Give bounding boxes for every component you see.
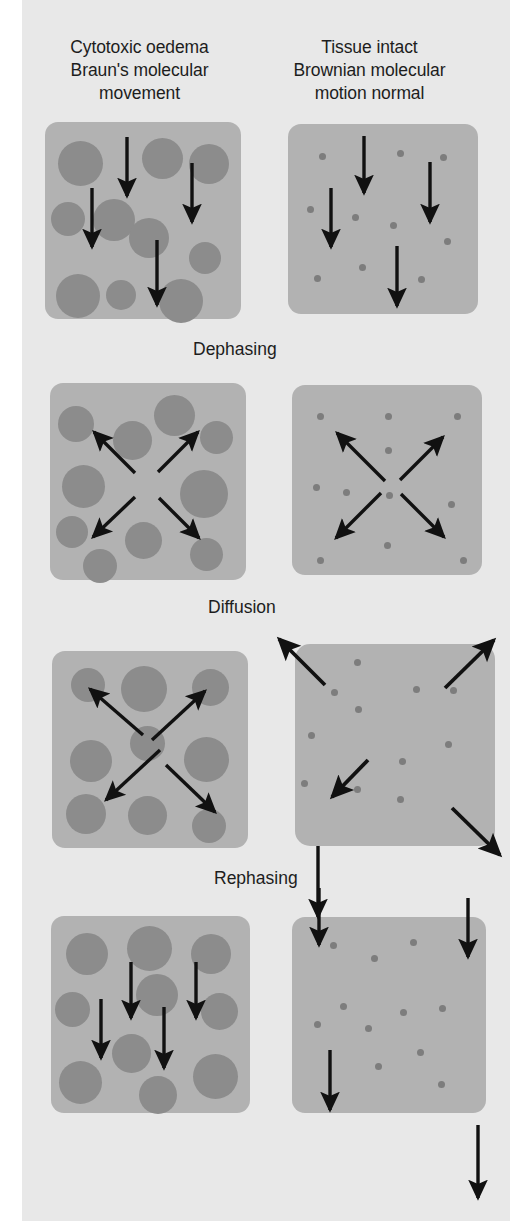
molecule-blob bbox=[189, 242, 221, 274]
panel-diffusion-left bbox=[52, 651, 248, 848]
molecule-blob bbox=[191, 934, 231, 974]
molecule-dot bbox=[448, 501, 455, 508]
molecule-blob bbox=[184, 737, 229, 782]
molecule-blob bbox=[56, 274, 100, 318]
molecule-dot bbox=[397, 796, 404, 803]
molecule-blob bbox=[55, 992, 90, 1027]
molecule-blob bbox=[189, 144, 229, 184]
molecule-blob bbox=[180, 470, 228, 518]
molecule-dot bbox=[314, 1021, 321, 1028]
molecule-blob bbox=[201, 993, 238, 1030]
molecule-blob bbox=[113, 421, 152, 460]
molecule-dot bbox=[340, 1003, 347, 1010]
molecule-dot bbox=[460, 557, 467, 564]
stage-label-dephasing: Dephasing bbox=[193, 338, 277, 360]
molecule-blob bbox=[129, 218, 169, 258]
molecule-dot bbox=[413, 686, 420, 693]
molecule-dot bbox=[386, 492, 393, 499]
molecule-dot bbox=[355, 706, 362, 713]
molecule-dot bbox=[417, 1049, 424, 1056]
panel-rephasing-left bbox=[51, 916, 250, 1113]
stage-label-rephasing: Rephasing bbox=[214, 867, 298, 889]
molecule-blob bbox=[58, 406, 94, 442]
molecule-dot bbox=[331, 689, 338, 696]
molecule-dot bbox=[371, 955, 378, 962]
molecule-dot bbox=[397, 150, 404, 157]
molecule-blob bbox=[154, 395, 195, 436]
molecule-blob bbox=[139, 1076, 177, 1114]
molecule-blob bbox=[193, 1054, 238, 1099]
column-title-left: Cytotoxic oedema Braun's molecular movem… bbox=[32, 36, 247, 105]
molecule-blob bbox=[51, 202, 85, 236]
molecule-dot bbox=[317, 557, 324, 564]
molecule-dot bbox=[313, 484, 320, 491]
molecule-blob bbox=[142, 138, 183, 179]
molecule-blob bbox=[125, 522, 162, 559]
molecule-blob bbox=[70, 740, 112, 782]
molecule-blob bbox=[66, 933, 108, 975]
molecule-dot bbox=[439, 1005, 446, 1012]
molecule-dot bbox=[317, 413, 324, 420]
molecule-dot bbox=[354, 659, 361, 666]
molecule-dot bbox=[440, 154, 447, 161]
molecule-dot bbox=[390, 222, 397, 229]
molecule-dot bbox=[445, 741, 452, 748]
molecule-dot bbox=[399, 758, 406, 765]
molecule-dot bbox=[307, 206, 314, 213]
molecule-dot bbox=[319, 153, 326, 160]
molecule-dot bbox=[308, 732, 315, 739]
molecule-blob bbox=[200, 421, 233, 454]
molecule-dot bbox=[352, 214, 359, 221]
molecule-blob bbox=[59, 1061, 102, 1104]
column-title-right: Tissue intact Brownian molecular motion … bbox=[262, 36, 477, 105]
molecule-blob bbox=[62, 465, 105, 508]
molecule-dot bbox=[438, 1081, 445, 1088]
molecule-blob bbox=[56, 516, 88, 548]
molecule-dot bbox=[314, 275, 321, 282]
molecule-dot bbox=[418, 276, 425, 283]
molecule-blob bbox=[66, 794, 106, 834]
molecule-dot bbox=[365, 1025, 372, 1032]
molecule-dot bbox=[343, 489, 350, 496]
molecule-blob bbox=[127, 926, 172, 971]
molecule-dot bbox=[450, 687, 457, 694]
molecule-dot bbox=[359, 264, 366, 271]
molecule-blob bbox=[192, 669, 229, 706]
panel-baseline-right bbox=[288, 124, 478, 314]
molecule-blob bbox=[136, 974, 178, 1016]
molecule-blob bbox=[58, 141, 103, 186]
panel-dephasing-right bbox=[292, 385, 482, 575]
molecule-dot bbox=[400, 1009, 407, 1016]
molecule-blob bbox=[128, 796, 167, 835]
molecule-blob bbox=[192, 809, 226, 843]
figure-root: Cytotoxic oedema Braun's molecular movem… bbox=[0, 0, 532, 1221]
molecule-blob bbox=[106, 280, 136, 310]
molecule-dot bbox=[454, 413, 461, 420]
molecule-dot bbox=[410, 939, 417, 946]
panel-rephasing-right bbox=[292, 917, 486, 1113]
stage-label-diffusion: Diffusion bbox=[208, 596, 276, 618]
molecule-blob bbox=[83, 549, 117, 583]
molecule-dot bbox=[301, 780, 308, 787]
molecule-dot bbox=[385, 447, 392, 454]
molecule-blob bbox=[112, 1034, 151, 1073]
panel-dephasing-left bbox=[50, 383, 246, 580]
molecule-dot bbox=[354, 786, 361, 793]
molecule-dot bbox=[385, 413, 392, 420]
molecule-blob bbox=[190, 538, 223, 571]
molecule-blob bbox=[121, 666, 167, 712]
molecule-dot bbox=[330, 942, 337, 949]
molecule-blob bbox=[71, 668, 105, 702]
molecule-blob bbox=[130, 726, 165, 761]
molecule-dot bbox=[384, 542, 391, 549]
molecule-dot bbox=[375, 1063, 382, 1070]
molecule-dot bbox=[444, 238, 451, 245]
panel-baseline-left bbox=[45, 122, 241, 319]
molecule-blob bbox=[159, 279, 203, 323]
panel-diffusion-right bbox=[295, 644, 495, 846]
